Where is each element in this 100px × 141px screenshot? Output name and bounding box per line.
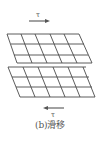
top-shear-arrow: [29, 19, 50, 23]
lower-block-grid: [8, 67, 95, 97]
figure-caption: (b)滑移: [0, 118, 100, 131]
top-tau-label: τ: [36, 11, 40, 19]
upper-block-grid: [7, 34, 92, 63]
bottom-shear-arrow: [43, 106, 64, 110]
